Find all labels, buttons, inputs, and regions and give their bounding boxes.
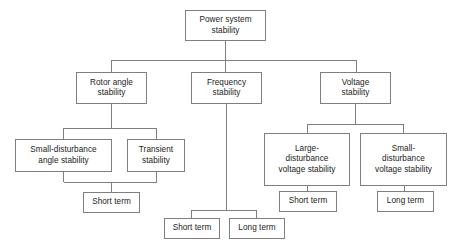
node-voltage-stability: Voltage stability — [320, 72, 391, 104]
node-small-disturbance-long-term: Long term — [377, 191, 434, 212]
node-frequency-short-term: Short term — [164, 218, 220, 239]
node-small-disturbance-angle-stability: Small-disturbance angle stability — [15, 139, 112, 172]
node-power-system-stability: Power system stability — [185, 10, 266, 41]
node-transient-stability: Transient stability — [127, 139, 185, 172]
power-system-stability-diagram: Power system stability Rotor angle stabi… — [0, 0, 459, 248]
node-small-disturbance-voltage-stability: Small- disturbance voltage stability — [360, 133, 447, 186]
node-frequency-long-term: Long term — [229, 218, 285, 239]
node-large-disturbance-voltage-stability: Large- disturbance voltage stability — [264, 133, 350, 186]
node-large-disturbance-short-term: Short term — [279, 191, 337, 212]
node-frequency-stability: Frequency stability — [191, 72, 262, 104]
node-rotor-angle-stability: Rotor angle stability — [76, 72, 147, 104]
node-angle-short-term: Short term — [83, 192, 140, 213]
